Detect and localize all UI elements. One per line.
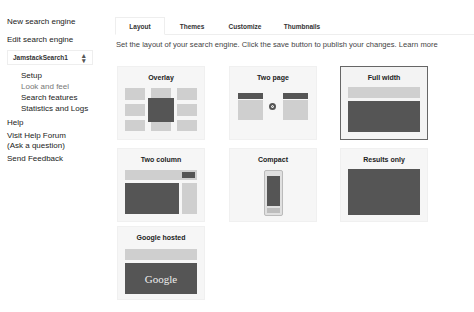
tab-themes[interactable]: Themes	[167, 17, 217, 35]
help-link[interactable]: Help	[7, 118, 23, 127]
card-title: Full width	[341, 74, 427, 81]
tab-bar: Layout Themes Customize Thumbnails	[115, 17, 474, 35]
send-feedback-link[interactable]: Send Feedback	[7, 154, 63, 163]
layout-card-full-width[interactable]: Full width	[340, 66, 428, 140]
layout-card-compact[interactable]: Compact	[229, 148, 317, 222]
layout-card-two-page[interactable]: Two page	[229, 66, 317, 140]
card-title: Google hosted	[118, 234, 204, 241]
card-title: Two column	[118, 156, 204, 163]
layout-card-google-hosted[interactable]: Google hosted Google	[117, 226, 205, 300]
sidebar-item-search-features[interactable]: Search features	[21, 93, 77, 102]
card-title: Results only	[341, 156, 427, 163]
up-down-arrows-icon: ▴▾	[82, 53, 86, 63]
engine-select-value: JamstackSearch1	[13, 54, 68, 61]
edit-search-engine-link[interactable]: Edit search engine	[7, 35, 73, 44]
card-title: Two page	[230, 74, 316, 81]
layout-card-overlay[interactable]: Overlay	[117, 66, 205, 140]
layout-card-results-only[interactable]: Results only	[340, 148, 428, 222]
tab-thumbnails[interactable]: Thumbnails	[273, 17, 331, 35]
ask-question-link[interactable]: (Ask a question)	[7, 141, 65, 150]
card-title: Compact	[230, 156, 316, 163]
layout-card-two-column[interactable]: Two column	[117, 148, 205, 222]
arrow-circle-icon	[269, 103, 276, 110]
learn-more-link[interactable]: Learn more	[399, 40, 438, 49]
tab-customize[interactable]: Customize	[219, 17, 271, 35]
sidebar-item-setup[interactable]: Setup	[21, 71, 42, 80]
sidebar-item-statistics-and-logs[interactable]: Statistics and Logs	[21, 104, 88, 113]
new-search-engine-link[interactable]: New search engine	[7, 17, 75, 26]
sidebar-item-look-and-feel[interactable]: Look and feel	[21, 82, 69, 91]
tab-layout[interactable]: Layout	[115, 17, 165, 35]
visit-help-forum-link[interactable]: Visit Help Forum	[7, 131, 66, 140]
description-text: Set the layout of your search engine. Cl…	[116, 40, 397, 49]
google-logo: Google	[145, 273, 177, 285]
card-title: Overlay	[118, 74, 204, 81]
engine-select[interactable]: JamstackSearch1 ▴▾	[7, 50, 93, 65]
layout-description: Set the layout of your search engine. Cl…	[116, 40, 438, 49]
